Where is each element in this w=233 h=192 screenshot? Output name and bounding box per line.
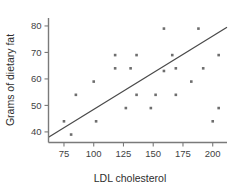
scatter-plot-figure: 4050607080 75100125150175200 LDL cholest…: [0, 0, 233, 192]
data-point: [211, 120, 214, 123]
data-point: [175, 67, 178, 70]
data-point: [125, 107, 128, 110]
data-point: [171, 54, 174, 57]
x-axis-ticks: 75100125150175200: [59, 143, 221, 159]
data-point: [135, 54, 138, 57]
data-point: [63, 120, 66, 123]
regression-line: [49, 27, 228, 137]
data-point: [135, 94, 138, 97]
data-point: [92, 80, 95, 83]
x-tick-label: 125: [116, 148, 132, 159]
data-point: [163, 27, 166, 30]
y-axis-title: Grams of dietary fat: [4, 34, 16, 126]
x-tick-label: 100: [86, 148, 102, 159]
data-point: [197, 27, 200, 30]
data-point: [202, 67, 205, 70]
x-tick-label: 175: [175, 148, 191, 159]
y-tick-label: 80: [31, 20, 42, 31]
x-tick-label: 200: [205, 148, 221, 159]
data-point: [190, 80, 193, 83]
y-tick-label: 70: [31, 47, 42, 58]
y-axis-ticks: 4050607080: [31, 20, 49, 137]
x-tick-label: 75: [59, 148, 70, 159]
data-point: [114, 67, 117, 70]
data-point: [217, 107, 220, 110]
data-point: [175, 94, 178, 97]
y-tick-label: 50: [31, 100, 42, 111]
x-axis-title: LDL cholesterol: [94, 172, 167, 184]
data-point: [163, 70, 166, 73]
regression-line-segment: [49, 27, 228, 137]
data-point: [217, 54, 220, 57]
data-point: [95, 120, 98, 123]
data-point: [114, 54, 117, 57]
data-points-group: [63, 27, 220, 136]
y-tick-label: 60: [31, 73, 42, 84]
y-tick-label: 40: [31, 126, 42, 137]
data-point: [154, 94, 157, 97]
data-point: [129, 67, 132, 70]
x-tick-label: 150: [145, 148, 161, 159]
data-point: [75, 94, 78, 97]
chart-canvas: 4050607080 75100125150175200 LDL cholest…: [0, 0, 233, 192]
data-point: [70, 133, 73, 136]
data-point: [150, 107, 153, 110]
